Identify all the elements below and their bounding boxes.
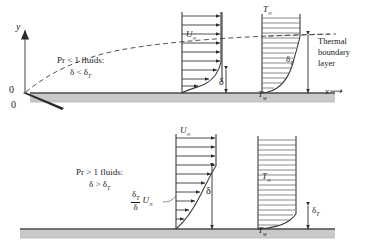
ratio-velocity-factor: U∞ bbox=[143, 195, 153, 205]
upper-delta-label: δ bbox=[219, 77, 224, 87]
lower-velocity-label: U∞ bbox=[180, 126, 190, 137]
upper-condition-line-2: δ < δT bbox=[70, 68, 91, 79]
origin-label-y: 0 bbox=[9, 85, 14, 95]
callout-line-1: Thermal bbox=[318, 36, 347, 46]
upper-velocity-profile bbox=[182, 12, 222, 93]
thermal-boundary-layer-callout: Thermal boundary layer bbox=[318, 36, 350, 70]
lower-condition-line-2: δ > δT bbox=[89, 180, 110, 191]
x-axis-label: x⟶ bbox=[325, 87, 342, 96]
lower-panel bbox=[20, 134, 335, 238]
lower-delta-t-label: δT bbox=[312, 206, 319, 217]
y-axis-label: y bbox=[16, 22, 20, 32]
lower-velocity-profile bbox=[176, 134, 216, 229]
upper-temperature-label: T∞ bbox=[263, 5, 272, 16]
upper-wall-plate bbox=[30, 93, 335, 102]
lower-wall-temperature-label: Tw bbox=[258, 226, 267, 237]
callout-line-2: boundary bbox=[318, 47, 350, 57]
origin-label-x: 0 bbox=[11, 100, 16, 110]
delta-ratio-velocity-annotation: δT δ U∞ bbox=[131, 190, 153, 212]
upper-wall-temperature-label: Tw bbox=[258, 90, 267, 101]
ratio-leader-line bbox=[163, 196, 176, 202]
lower-condition-line-1: Pr > 1 fluids: bbox=[76, 168, 123, 177]
lower-delta-label: δ bbox=[206, 186, 211, 196]
upper-temperature-profile bbox=[262, 14, 300, 93]
delta-ratio-fraction: δT δ bbox=[131, 190, 140, 212]
upper-velocity-label: U∞ bbox=[186, 30, 196, 41]
upper-delta-t-label: δT bbox=[286, 55, 293, 66]
lower-wall-plate bbox=[20, 229, 335, 238]
callout-line-3: layer bbox=[318, 58, 335, 68]
upper-condition-line-1: Pr < 1 fluids: bbox=[57, 56, 104, 65]
lower-temperature-label: T∞ bbox=[262, 172, 271, 183]
